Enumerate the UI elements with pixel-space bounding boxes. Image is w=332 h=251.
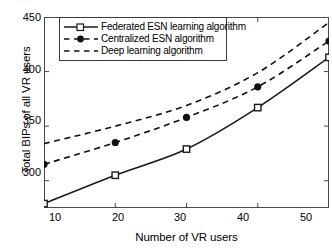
- legend-label: Federated ESN learning algorithm: [101, 22, 246, 32]
- legend-item-federated: Federated ESN learning algorithm: [63, 21, 222, 33]
- data-point-marker-circle: [254, 83, 261, 90]
- legend-swatch-dashed: [63, 45, 99, 57]
- legend-label: Deep learning algorithm: [101, 46, 203, 56]
- legend: Federated ESN learning algorithm Central…: [59, 17, 227, 61]
- y-axis-tick-labels: 450 400 350 300: [8, 0, 41, 251]
- data-point-marker-circle: [183, 114, 190, 121]
- x-tick-label: 30: [163, 212, 197, 223]
- data-point-marker-circle: [44, 161, 48, 168]
- legend-swatch-dashed-circle: [63, 33, 99, 45]
- x-tick-label: 40: [226, 212, 260, 223]
- y-tick-label: 300: [11, 167, 41, 178]
- x-tick-label: 50: [289, 212, 323, 223]
- series-line: [44, 54, 329, 207]
- legend-swatch-solid-square: [63, 21, 99, 33]
- data-point-marker-square: [112, 172, 118, 178]
- legend-item-deep-learning: Deep learning algorithm: [63, 45, 222, 57]
- figure: Total BIPs of all VR users 450 400 350 3…: [0, 0, 332, 251]
- x-tick-label: 10: [38, 212, 72, 223]
- data-point-marker-square: [183, 146, 189, 152]
- y-tick-label: 450: [11, 12, 41, 23]
- y-tick-label: 400: [11, 64, 41, 75]
- data-point-marker-circle: [112, 139, 119, 146]
- legend-label: Centralized ESN algorithm: [101, 34, 214, 44]
- x-tick-label: 20: [101, 212, 135, 223]
- legend-item-centralized: Centralized ESN algorithm: [63, 33, 222, 45]
- data-point-marker-square: [326, 54, 329, 60]
- y-tick-label: 350: [11, 115, 41, 126]
- data-point-marker-square: [255, 104, 261, 110]
- x-axis-label: Number of VR users: [44, 231, 329, 243]
- data-point-marker-square: [44, 200, 47, 206]
